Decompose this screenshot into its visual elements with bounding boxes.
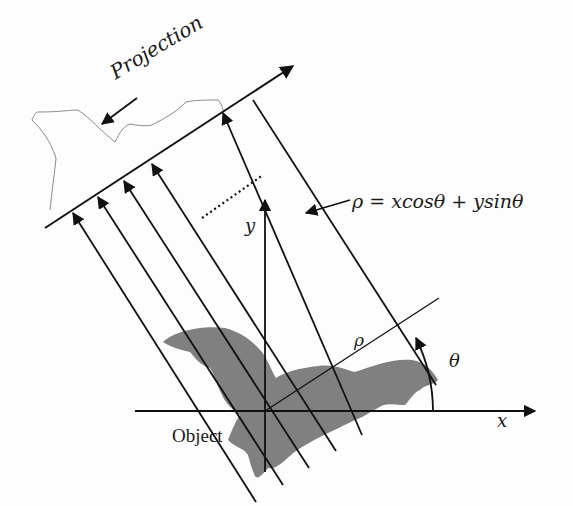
rho-label: ρ [354,330,364,350]
object-label: Object [172,425,223,447]
projection-axis [45,66,293,228]
y-axis-label: y [245,215,255,236]
theta-label: θ [449,350,460,371]
equation-pointer [306,200,350,213]
projection-rays [73,100,436,502]
projection-outline [32,100,224,210]
radon-diagram: Projection ρ = xcosθ + ysinθ y x ρ θ Obj… [0,0,573,506]
equation-label: ρ = xcosθ + ysinθ [352,190,523,212]
projection-pointer [102,98,137,124]
diagram-svg [0,0,573,506]
x-axis-label: x [497,410,507,431]
ellipsis-dots [202,175,263,218]
